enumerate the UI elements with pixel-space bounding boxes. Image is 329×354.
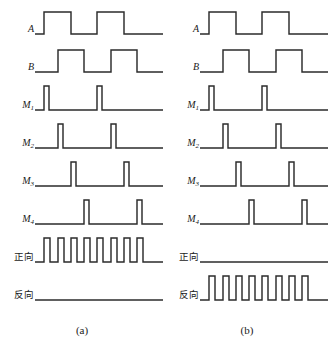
signal-row-m1: M1 (0, 80, 164, 118)
signal-label: M4 (2, 213, 34, 226)
signal-label: M3 (2, 175, 34, 188)
signal-row-a: A (165, 4, 329, 42)
signal-label: 反向 (2, 289, 34, 300)
signal-label-subscript: 1 (31, 104, 35, 112)
waveform (35, 118, 163, 156)
signal-label: 正向 (167, 251, 199, 262)
timing-diagram-figure: ABM1M2M3M4正向反向(a)ABM1M2M3M4正向反向(b) (0, 0, 329, 354)
signal-row-m4: M4 (0, 194, 164, 232)
signal-label: A (167, 23, 199, 34)
signal-row-reverse: 反向 (0, 270, 164, 308)
signal-label-subscript: 3 (196, 180, 200, 188)
waveform (35, 80, 163, 118)
signal-row-b: B (165, 42, 329, 80)
signal-label: M1 (2, 99, 34, 112)
signal-label-subscript: 4 (196, 218, 200, 226)
waveform (200, 232, 328, 270)
waveform (35, 232, 163, 270)
waveform (200, 42, 328, 80)
signal-label: M4 (167, 213, 199, 226)
waveform (200, 4, 328, 42)
signal-row-m2: M2 (0, 118, 164, 156)
signal-row-a: A (0, 4, 164, 42)
signal-label: M2 (167, 137, 199, 150)
signal-label-subscript: 3 (31, 180, 35, 188)
signal-label: M3 (167, 175, 199, 188)
waveform (35, 156, 163, 194)
signal-label: 正向 (2, 251, 34, 262)
waveform (200, 156, 328, 194)
signal-row-b: B (0, 42, 164, 80)
signal-row-m2: M2 (165, 118, 329, 156)
panel-caption-a: (a) (0, 324, 164, 336)
signal-row-m3: M3 (0, 156, 164, 194)
signal-label: A (2, 23, 34, 34)
signal-label-subscript: 2 (31, 142, 35, 150)
signal-row-m1: M1 (165, 80, 329, 118)
waveform (200, 194, 328, 232)
signal-label-subscript: 1 (196, 104, 200, 112)
signal-row-m3: M3 (165, 156, 329, 194)
panel-b: ABM1M2M3M4正向反向(b) (165, 0, 329, 354)
signal-label-subscript: 4 (31, 218, 35, 226)
waveform (35, 194, 163, 232)
signal-row-reverse: 反向 (165, 270, 329, 308)
signal-label: 反向 (167, 289, 199, 300)
signal-label: B (2, 61, 34, 72)
waveform (35, 270, 163, 308)
waveform (200, 118, 328, 156)
signal-row-forward: 正向 (0, 232, 164, 270)
signal-label: M2 (2, 137, 34, 150)
waveform (200, 80, 328, 118)
waveform (35, 42, 163, 80)
waveform (200, 270, 328, 308)
signal-row-m4: M4 (165, 194, 329, 232)
panel-caption-b: (b) (165, 324, 329, 336)
waveform (35, 4, 163, 42)
panel-a: ABM1M2M3M4正向反向(a) (0, 0, 164, 354)
signal-label: M1 (167, 99, 199, 112)
signal-label: B (167, 61, 199, 72)
signal-row-forward: 正向 (165, 232, 329, 270)
signal-label-subscript: 2 (196, 142, 200, 150)
